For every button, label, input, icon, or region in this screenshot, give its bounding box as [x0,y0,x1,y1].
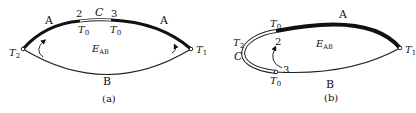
arc-a-right [111,20,191,49]
panel-b: A T0 T2 C 2 3 T0 T1 EAB B (b) [233,8,416,103]
label-point-3: 3 [111,8,117,19]
label-point-3: 3 [283,64,289,75]
curved-arrow-left-icon [39,41,44,57]
caption-a: (a) [102,93,116,104]
segment-c-outer [243,31,276,72]
label-t2: T2 [9,47,20,60]
label-b: B [103,75,111,88]
label-t2: T2 [233,37,244,50]
arc-a [276,24,400,48]
node-t1 [189,47,193,51]
caption-b: (b) [324,92,338,103]
label-region-eab: EAB [91,43,109,56]
label-t0-left: T0 [78,24,89,37]
label-b: B [326,78,334,91]
arc-b [276,48,400,73]
label-point-2: 2 [275,36,281,47]
label-c: C [95,6,104,19]
diagram-canvas: A A 2 C 3 T0 T0 T2 T1 EAB B (a) A T0 T2 … [0,0,416,113]
label-c: C [234,50,243,63]
panel-a: A A 2 C 3 T0 T0 T2 T1 EAB B (a) [9,6,207,104]
node-t1 [398,46,402,50]
curved-arrow-right-icon [172,46,176,53]
label-a-left: A [44,14,54,27]
label-a-right: A [159,14,169,27]
label-t1: T1 [405,44,416,57]
label-t0-bottom: T0 [270,75,281,88]
label-t1: T1 [196,44,207,57]
node-t0-bottom [274,70,278,74]
node-t2 [21,47,25,51]
label-region-eab: EAB [315,38,333,51]
label-a: A [338,8,348,21]
curved-arrow-icon [273,48,282,68]
label-point-2: 2 [76,8,82,19]
label-t0-right: T0 [110,24,121,37]
